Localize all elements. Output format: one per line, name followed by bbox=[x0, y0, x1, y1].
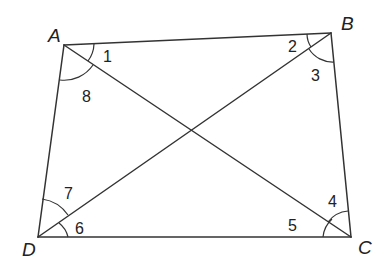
angle-label-7: 7 bbox=[64, 185, 73, 202]
side-DA bbox=[38, 45, 64, 237]
arc-angle-8 bbox=[60, 65, 93, 80]
arc-angle-6 bbox=[59, 223, 68, 237]
angle-label-1: 1 bbox=[103, 48, 112, 65]
angle-label-4: 4 bbox=[328, 193, 337, 210]
vertex-label-D: D bbox=[22, 239, 36, 260]
vertex-label-A: A bbox=[47, 25, 61, 46]
arc-angle-2 bbox=[307, 34, 311, 47]
diagonal-AC bbox=[64, 45, 351, 237]
diagonal-BD bbox=[38, 33, 331, 237]
angle-label-6: 6 bbox=[75, 220, 84, 237]
edges bbox=[38, 33, 351, 237]
angle-labels: 1 2 3 4 5 6 7 8 bbox=[64, 38, 337, 237]
quadrilateral-diagram: A B C D 1 2 3 4 5 6 7 8 bbox=[0, 0, 389, 273]
arc-angle-3 bbox=[309, 49, 334, 62]
arc-angle-1 bbox=[88, 44, 94, 61]
vertex-label-B: B bbox=[341, 13, 354, 34]
angle-label-8: 8 bbox=[82, 88, 91, 105]
angle-label-5: 5 bbox=[288, 217, 297, 234]
vertex-label-C: C bbox=[358, 237, 372, 258]
angle-arcs bbox=[42, 34, 348, 237]
angle-label-2: 2 bbox=[288, 38, 297, 55]
angle-label-3: 3 bbox=[311, 67, 320, 84]
